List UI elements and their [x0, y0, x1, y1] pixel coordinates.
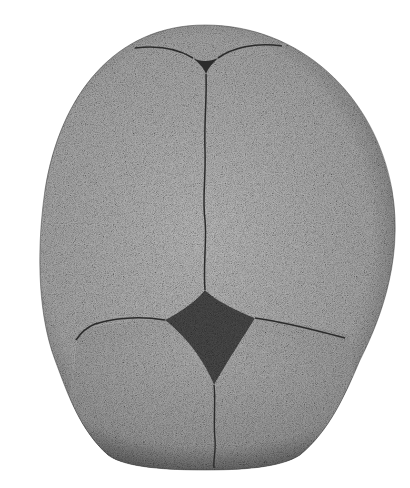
metopic-suture	[214, 385, 215, 468]
skull-drawing	[0, 0, 410, 488]
skull-illustration	[0, 0, 410, 488]
